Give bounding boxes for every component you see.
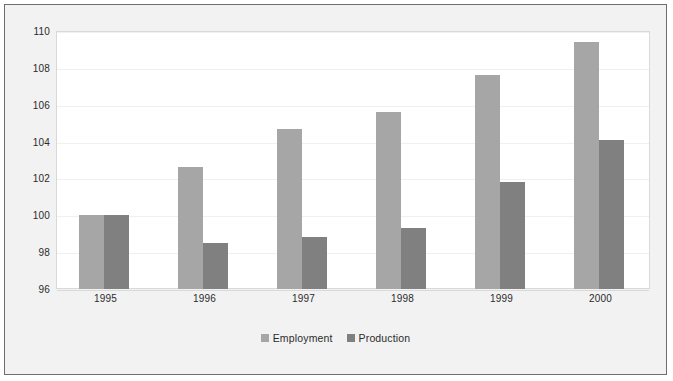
y-axis-label-98: 98 — [38, 247, 50, 258]
legend-item-production[interactable]: Production — [347, 332, 411, 344]
y-axis-label-104: 104 — [33, 136, 50, 147]
bar-employment-1995[interactable] — [79, 215, 104, 289]
bar-employment-2000[interactable] — [574, 42, 599, 289]
bar-employment-1999[interactable] — [475, 75, 500, 289]
bars-layer — [56, 31, 650, 289]
chart-figure-frame: 9698100102104106108110 19951996199719981… — [4, 4, 667, 375]
gridline-96 — [57, 290, 649, 291]
x-axis-label-1998: 1998 — [353, 293, 452, 304]
bar-group-1999 — [452, 31, 551, 289]
chart-legend: EmploymentProduction — [5, 332, 666, 344]
bar-employment-1996[interactable] — [178, 167, 203, 289]
bar-production-1995[interactable] — [104, 215, 129, 289]
bar-group-2000 — [551, 31, 650, 289]
legend-swatch-production-icon — [347, 334, 355, 342]
bar-group-1998 — [353, 31, 452, 289]
x-axis-label-2000: 2000 — [551, 293, 650, 304]
y-axis-label-96: 96 — [38, 284, 50, 295]
bar-employment-1998[interactable] — [376, 112, 401, 289]
bar-production-1997[interactable] — [302, 237, 327, 289]
x-axis-tick-labels: 199519961997199819992000 — [56, 293, 650, 309]
bar-production-2000[interactable] — [599, 140, 624, 289]
y-axis-label-106: 106 — [33, 99, 50, 110]
legend-label-employment: Employment — [273, 332, 333, 344]
y-axis-label-100: 100 — [33, 210, 50, 221]
legend-label-production: Production — [359, 332, 411, 344]
legend-item-employment[interactable]: Employment — [261, 332, 333, 344]
bar-production-1999[interactable] — [500, 182, 525, 289]
bar-group-1997 — [254, 31, 353, 289]
x-axis-label-1997: 1997 — [254, 293, 353, 304]
bar-group-1996 — [155, 31, 254, 289]
y-axis-label-102: 102 — [33, 173, 50, 184]
y-axis-label-108: 108 — [33, 62, 50, 73]
bar-production-1996[interactable] — [203, 243, 228, 289]
y-axis-tick-labels: 9698100102104106108110 — [5, 31, 50, 289]
bar-group-1995 — [56, 31, 155, 289]
bar-production-1998[interactable] — [401, 228, 426, 289]
x-axis-label-1996: 1996 — [155, 293, 254, 304]
x-axis-label-1995: 1995 — [56, 293, 155, 304]
x-axis-label-1999: 1999 — [452, 293, 551, 304]
bar-employment-1997[interactable] — [277, 129, 302, 289]
legend-swatch-employment-icon — [261, 334, 269, 342]
y-axis-label-110: 110 — [33, 26, 50, 37]
bar-chart: 9698100102104106108110 19951996199719981… — [5, 5, 666, 374]
